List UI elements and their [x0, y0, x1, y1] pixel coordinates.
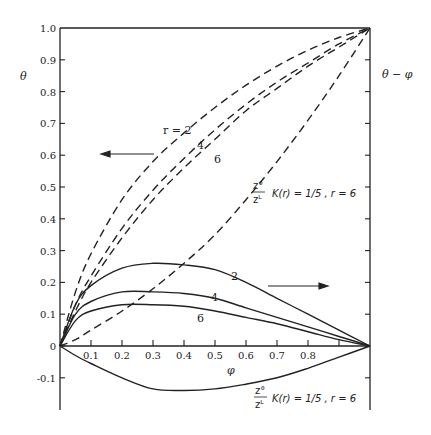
tick-labels: 1.00.90.80.70.60.50.40.30.20.10-0.10.10.…: [37, 23, 316, 384]
y-tick-label: 0.3: [40, 246, 56, 257]
x-tick-label: 0.5: [207, 350, 223, 361]
curves: [60, 28, 370, 391]
k-annotation-lower: z° zᴸ K(r) = 1/5 , r = 6: [254, 385, 356, 410]
svg-text:K(r) = 1/5 , r = 6: K(r) = 1/5 , r = 6: [272, 188, 356, 199]
label-r2-solid: 2: [231, 270, 238, 283]
right-arrow-icon: [268, 283, 328, 289]
y-tick-label: 0.4: [40, 214, 56, 225]
x-tick-label: 0.7: [269, 350, 285, 361]
x-tick-label: 0.4: [176, 350, 192, 361]
y-tick-label: 1.0: [40, 23, 56, 34]
y-tick-label: 0.8: [40, 87, 56, 98]
x-tick-label: 0.1: [83, 350, 99, 361]
y-tick-label: -0.1: [37, 373, 56, 384]
label-r2-dashed: r = 2: [163, 124, 191, 137]
y-axis-label-left: θ: [20, 70, 27, 83]
y-tick-label: 0.9: [40, 55, 56, 66]
y-tick-label: 0.7: [40, 118, 56, 129]
curve-theta-minus-phi-6: [60, 304, 370, 346]
svg-text:zᴸ: zᴸ: [253, 194, 262, 205]
label-r6-dashed: 6: [214, 153, 221, 166]
svg-text:zᴸ: zᴸ: [255, 399, 264, 410]
chart: 1.00.90.80.70.60.50.40.30.20.10-0.10.10.…: [0, 0, 431, 435]
label-r6-solid: 6: [197, 312, 204, 325]
y-axis-label-right: θ − φ: [382, 68, 413, 81]
x-tick-label: 0.8: [300, 350, 316, 361]
x-tick-label: 0.3: [145, 350, 161, 361]
left-arrow-icon: [101, 151, 154, 157]
y-tick-label: 0.6: [40, 150, 56, 161]
k-annotation-upper: z° zᴸ K(r) = 1/5 , r = 6: [252, 180, 356, 205]
svg-text:z°: z°: [255, 385, 265, 396]
y-tick-label: 0.1: [40, 309, 56, 320]
y-tick-label: 0: [50, 341, 56, 352]
y-tick-label: 0.2: [40, 277, 56, 288]
y-tick-label: 0.5: [40, 182, 56, 193]
svg-text:K(r) = 1/5 , r = 6: K(r) = 1/5 , r = 6: [272, 393, 356, 404]
label-r4-dashed: 4: [197, 139, 204, 152]
x-tick-label: 0.2: [114, 350, 130, 361]
x-axis-label: φ: [227, 364, 235, 377]
curve-theta-minus-phi-4: [60, 263, 370, 346]
x-tick-label: 0.6: [238, 350, 254, 361]
svg-text:z°: z°: [253, 180, 263, 191]
label-r4-solid: 4: [211, 291, 218, 304]
